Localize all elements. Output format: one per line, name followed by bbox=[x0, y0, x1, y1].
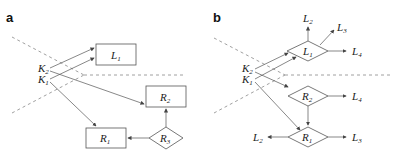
label-R1-a: R1 bbox=[99, 132, 110, 146]
edges-b bbox=[255, 27, 346, 137]
label-L1-a: L1 bbox=[110, 49, 121, 63]
panel-label-a: a bbox=[6, 10, 14, 25]
label-L1-b: L1 bbox=[302, 45, 313, 59]
panel-label-b: b bbox=[213, 10, 221, 25]
label-R2-b: R2 bbox=[301, 90, 313, 104]
label-L4-top: L4 bbox=[351, 45, 362, 59]
label-L2-bottom: L2 bbox=[252, 131, 263, 145]
edges-a bbox=[50, 48, 166, 138]
label-L3-bottom: L3 bbox=[351, 131, 362, 145]
label-L2-top: L2 bbox=[302, 12, 313, 26]
diagram-canvas: a K2 K1 L1 R2 R1 R3 b bbox=[0, 0, 398, 156]
figure: a K2 K1 L1 R2 R1 R3 b bbox=[0, 0, 398, 156]
label-R2-a: R2 bbox=[159, 91, 171, 105]
label-L4-mid: L4 bbox=[351, 90, 362, 104]
label-R3-a: R3 bbox=[159, 132, 171, 146]
label-R1-b: R1 bbox=[301, 131, 312, 145]
label-L3-top: L3 bbox=[336, 21, 347, 35]
